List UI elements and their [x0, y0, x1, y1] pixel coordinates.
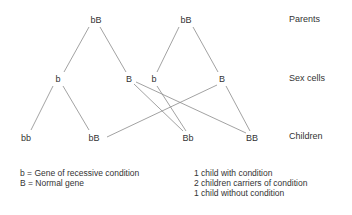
key-line: b = Gene of recessive condition: [20, 168, 139, 178]
child-genotype: bb: [21, 133, 31, 144]
sex-cell: B: [126, 74, 132, 85]
sex-cell: b: [151, 74, 156, 85]
child-genotype: bB: [88, 133, 99, 144]
outcome-summary: 1 child with condition 2 children carrie…: [194, 168, 307, 198]
outcome-line: 1 child with condition: [194, 168, 307, 178]
key-line: B = Normal gene: [20, 178, 139, 188]
parent-genotype: bB: [180, 15, 191, 26]
parent-genotype: bB: [90, 15, 101, 26]
outcome-line: 1 child without condition: [194, 188, 307, 198]
row-label-sex-cells: Sex cells: [289, 73, 325, 84]
row-label-children: Children: [289, 131, 323, 142]
child-genotype: Bb: [182, 133, 193, 144]
outcome-line: 2 children carriers of condition: [194, 178, 307, 188]
row-label-parents: Parents: [289, 14, 320, 25]
sex-cell: B: [219, 74, 225, 85]
genotype-key: b = Gene of recessive condition B = Norm…: [20, 168, 139, 188]
child-genotype: BB: [246, 133, 258, 144]
sex-cell: b: [55, 74, 60, 85]
